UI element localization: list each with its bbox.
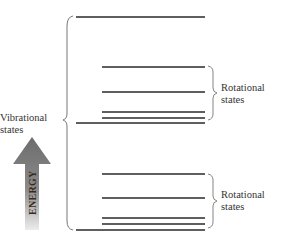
vibrational-label-line2: states [0,124,47,136]
energy-label: ENERGY [27,170,38,215]
vibrational-states-label: Vibrational states [0,112,47,136]
rotational-upper-label-line1: Rotational [221,82,265,94]
vibrational-label-line1: Vibrational [0,112,47,124]
rotational-brace-lower [208,174,217,228]
rotational-states-upper-label: Rotational states [221,82,265,106]
rotational-lower-label-line2: states [221,201,265,213]
rotational-brace-upper [208,66,217,120]
vibrational-brace [63,16,73,230]
rotational-states-lower-label: Rotational states [221,189,265,213]
rotational-upper-label-line2: states [221,94,265,106]
rotational-levels-lower [102,174,205,224]
rotational-levels-upper [102,67,205,118]
rotational-lower-label-line1: Rotational [221,189,265,201]
